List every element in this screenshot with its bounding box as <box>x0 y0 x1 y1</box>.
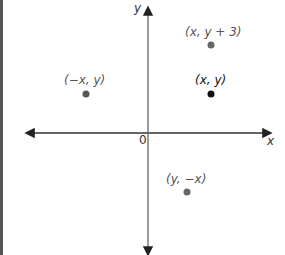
point-x-y-plus-3 <box>208 42 215 49</box>
label-neg-x-y: (−x, y) <box>64 73 105 87</box>
point-y-neg-x <box>184 189 191 196</box>
coordinate-plane <box>0 0 285 255</box>
label-x-y: (x, y) <box>195 73 226 87</box>
y-axis-label: y <box>134 1 141 15</box>
point-neg-x-y <box>83 91 90 98</box>
label-x-y-plus-3: (x, y + 3) <box>185 25 242 39</box>
x-axis-label: x <box>267 134 274 148</box>
label-y-neg-x: (y, −x) <box>166 172 206 186</box>
origin-label: 0 <box>139 133 147 147</box>
point-x-y <box>208 91 215 98</box>
